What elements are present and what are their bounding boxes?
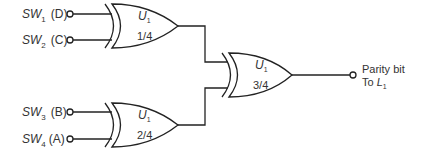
gate2-fraction: 2/4 [137,129,152,141]
xor-parity-diagram: SW1(D) SW2(C) SW3(B) SW4(A) U1 1/4 U1 2/… [0,0,428,156]
terminal-output [350,72,356,78]
gate3-fraction: 3/4 [253,79,268,91]
wire-g1-g3 [178,26,228,62]
label-sw4: SW4(A) [22,132,65,149]
output-label-line2: To L1 [362,76,387,90]
output-label-line1: Parity bit [362,63,405,75]
gate1-fraction: 1/4 [137,30,152,42]
terminal-sw4 [67,136,73,142]
label-sw2: SW2(C) [22,33,67,50]
terminal-sw3 [67,109,73,115]
label-sw1: SW1(D) [22,7,67,24]
label-sw3: SW3(B) [22,105,67,122]
wire-g2-g3 [178,88,228,125]
terminal-sw2 [67,37,73,43]
terminal-sw1 [67,11,73,17]
